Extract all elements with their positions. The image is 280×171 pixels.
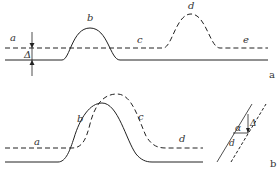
label-b-c: c [138,111,144,122]
label-a-a: a [10,32,16,43]
panel-label-a: a [269,69,275,80]
label-b-d: d [179,133,185,144]
label-a-d: d [188,0,194,11]
panel-label-b: b [270,158,276,169]
inset-delta: Δ [249,118,257,128]
delta-arrow-bottom-icon [30,60,35,65]
diagram-canvas: a Δ b c d e a a b c d α Δ d b [0,0,280,171]
solid-curve-b [5,103,203,162]
label-a-b: b [87,12,93,23]
panel-b: a b c d α Δ d b [5,94,276,169]
label-b-a: a [34,136,40,147]
inset-alpha: α [235,123,241,133]
inset-d: d [229,138,235,148]
inset-triangle: α Δ d [217,104,266,162]
label-b-b: b [77,113,83,124]
delta-arrow-top-icon [30,43,35,48]
inset-arrow-icon [246,128,250,133]
label-a-e: e [243,34,249,45]
panel-a: a Δ b c d e a [5,0,275,80]
label-a-c: c [137,34,143,45]
label-a-delta: Δ [23,49,31,60]
